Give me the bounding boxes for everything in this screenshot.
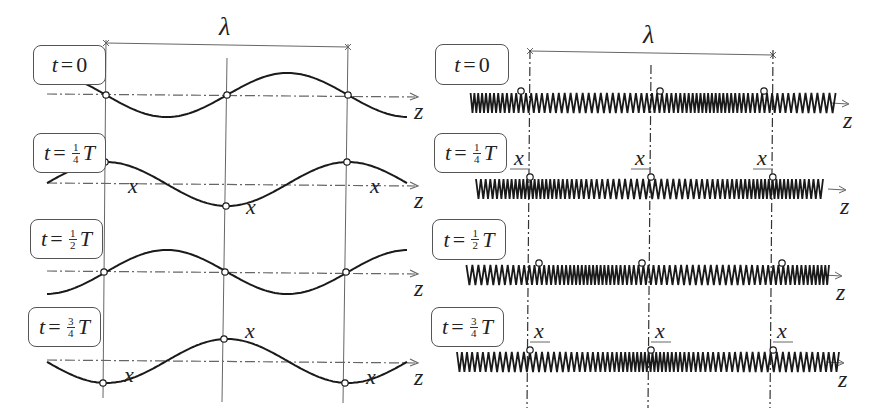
displacement-label: x: [365, 364, 376, 389]
left-label-t-half: t= 12 T: [30, 219, 103, 259]
displacement-label: x: [533, 318, 544, 343]
fraction: 12: [69, 228, 77, 251]
t-symbol: t: [444, 227, 450, 253]
period-symbol: T: [484, 140, 496, 166]
right-label-t-quarter: t= 14 T: [434, 133, 507, 173]
left-label-t-three-quarter: t= 34 T: [28, 307, 101, 347]
particle-marker: [648, 174, 654, 180]
t-value: 0: [76, 52, 87, 78]
displacement-label: x: [654, 318, 665, 343]
displacement-label: x: [369, 173, 380, 198]
fraction: 14: [72, 142, 80, 165]
longitudinal-spring-wave: [471, 93, 836, 113]
t-symbol: t: [442, 314, 448, 340]
particle-marker: [536, 260, 542, 266]
z-axis-label: z: [842, 107, 853, 133]
particle-marker: [527, 174, 533, 180]
z-axis-label: z: [835, 279, 846, 305]
z-axis-label: z: [413, 364, 424, 390]
particle-marker: [224, 92, 230, 98]
t-symbol: t: [44, 140, 50, 166]
particle-marker: [639, 260, 645, 266]
z-axis: [47, 183, 415, 186]
t-symbol: t: [445, 140, 451, 166]
particle-marker: [100, 380, 106, 386]
t-symbol: t: [41, 226, 47, 252]
particle-marker: [770, 347, 776, 353]
longitudinal-spring-wave: [466, 265, 829, 285]
z-axis-label: z: [413, 187, 424, 213]
particle-marker: [343, 269, 349, 275]
z-axis-label: z: [413, 275, 424, 301]
particle-marker: [770, 174, 776, 180]
z-axis-label: z: [413, 98, 424, 124]
z-axis: [47, 360, 415, 363]
fraction: 34: [470, 316, 478, 339]
right-label-t-three-quarter: t= 34 T: [431, 307, 504, 347]
particle-marker: [527, 347, 533, 353]
t-symbol: t: [454, 52, 460, 78]
z-axis-label: z: [837, 366, 848, 392]
displacement-label: x: [245, 194, 256, 219]
right-label-t-half: t= 12 T: [432, 219, 506, 260]
longitudinal-spring-wave: [457, 352, 839, 372]
period-symbol: T: [83, 140, 95, 166]
displacement-label: x: [513, 145, 524, 170]
displacement-label: x: [123, 362, 134, 387]
left-label-t0: t=0: [33, 45, 106, 85]
particle-marker: [342, 380, 348, 386]
t-symbol: t: [52, 52, 58, 78]
vertical-guide: [222, 58, 227, 402]
t-symbol: t: [39, 314, 45, 340]
z-axis: [47, 94, 415, 97]
wavelength-dimension-line: [530, 51, 773, 55]
particle-marker: [648, 347, 654, 353]
fraction: 34: [67, 316, 75, 339]
period-symbol: T: [482, 227, 494, 253]
right-label-t0: t=0: [435, 44, 509, 85]
particle-marker: [222, 269, 228, 275]
t-value: 0: [479, 52, 490, 78]
particle-marker: [101, 269, 107, 275]
wavelength-label: λ: [218, 12, 230, 41]
period-symbol: T: [78, 314, 90, 340]
displacement-label: x: [634, 145, 645, 170]
displacement-label: x: [756, 145, 767, 170]
left-label-t-quarter: t= 14 T: [33, 133, 106, 173]
wave-diagram: λzzxxxzzxxxλzzxxxzzxxx t=0 t= 14 T t= 12…: [0, 0, 879, 420]
wavelength-dimension-line: [106, 43, 348, 47]
z-axis-label: z: [839, 193, 850, 219]
particle-marker: [223, 203, 229, 209]
particle-marker: [345, 92, 351, 98]
particle-marker: [103, 92, 109, 98]
z-axis: [828, 189, 845, 190]
particle-marker: [518, 88, 524, 94]
particle-marker: [779, 260, 785, 266]
wavelength-label: λ: [642, 20, 654, 49]
period-symbol: T: [481, 314, 493, 340]
displacement-label: x: [776, 318, 787, 343]
particle-marker: [657, 88, 663, 94]
particle-marker: [761, 88, 767, 94]
particle-marker: [344, 159, 350, 165]
particle-marker: [221, 336, 227, 342]
period-symbol: T: [80, 226, 92, 252]
displacement-label: x: [127, 173, 138, 198]
displacement-label: x: [244, 318, 255, 343]
fraction: 14: [473, 142, 481, 165]
fraction: 12: [471, 228, 479, 251]
